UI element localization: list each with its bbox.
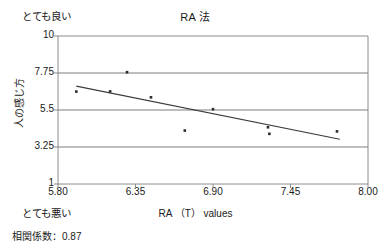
trendline [76, 86, 340, 139]
trendline-segment [76, 86, 340, 139]
data-point-1 [109, 90, 112, 93]
data-point-3 [150, 96, 153, 99]
chart-container: RA 法 とても良い とても悪い 人の感じ方 RA （T） values 相関係… [0, 0, 391, 247]
data-point-7 [268, 133, 271, 136]
tick-marks [54, 36, 368, 188]
data-point-4 [184, 129, 187, 132]
plot-area [0, 0, 391, 247]
data-point-5 [212, 108, 215, 111]
data-point-6 [267, 126, 270, 129]
data-point-2 [126, 71, 129, 74]
data-point-8 [336, 130, 339, 133]
data-points [75, 71, 338, 135]
data-point-0 [75, 90, 78, 93]
